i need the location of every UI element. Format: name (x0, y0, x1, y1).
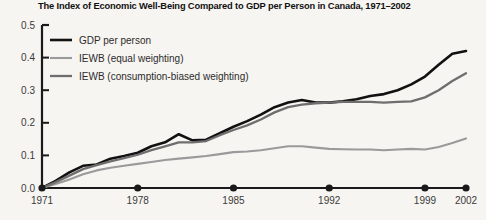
x-axis-tick-marker (462, 184, 469, 191)
y-axis-tick-label: 0.5 (21, 20, 35, 31)
y-axis-tick-label: 0.4 (21, 52, 35, 63)
x-axis-tick-label: 1971 (31, 195, 54, 206)
x-axis-tick-marker (38, 184, 45, 191)
chart-legend: GDP per personIEWB (equal weighting)IEWB… (50, 35, 249, 82)
x-axis-tick-marker (230, 184, 237, 191)
y-axis-tick-label: 0.1 (21, 150, 35, 161)
x-axis-tick-label: 1978 (127, 195, 150, 206)
y-axis-tick-label: 0.0 (21, 183, 35, 194)
legend-label-0: GDP per person (79, 35, 151, 46)
x-axis-tick-marker (134, 184, 141, 191)
y-axis-tick-label: 0.3 (21, 85, 35, 96)
x-axis-ticks: 197119781985199219992002 (31, 195, 478, 206)
x-axis-tick-label: 2002 (455, 195, 478, 206)
series-line-2 (42, 73, 466, 188)
legend-label-2: IEWB (consumption-biased weighting) (79, 71, 249, 82)
x-axis-tick-label: 1999 (414, 195, 437, 206)
x-axis-tick-label: 1992 (318, 195, 341, 206)
y-axis-tick-label: 0.2 (21, 117, 35, 128)
chart-container: The Index of Economic Well-Being Compare… (0, 0, 486, 220)
x-axis-tick-label: 1985 (222, 195, 245, 206)
x-axis-tick-marker (421, 184, 428, 191)
y-axis-ticks: 0.00.10.20.30.40.5 (21, 20, 49, 194)
chart-plot-area: 0.00.10.20.30.40.5 197119781985199219992… (0, 0, 486, 220)
legend-label-1: IEWB (equal weighting) (79, 53, 184, 64)
x-axis-tick-marker (326, 184, 333, 191)
